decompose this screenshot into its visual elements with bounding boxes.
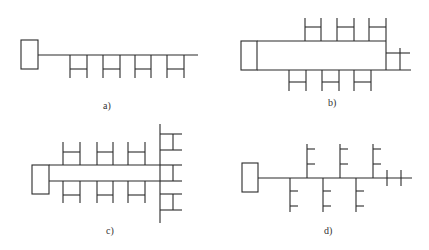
- fishbone-branch-up: [307, 144, 315, 178]
- comb-branch: [160, 194, 182, 210]
- panel-d: d): [242, 144, 412, 237]
- ladder-branch: [128, 181, 145, 203]
- source-box: [242, 163, 258, 192]
- fishbone-branch-down: [323, 178, 331, 212]
- ladder-branch: [63, 142, 80, 165]
- ladder-branch: [289, 70, 306, 91]
- comb-branch: [160, 134, 182, 150]
- ladder-branch: [305, 18, 321, 41]
- ladder-branch: [97, 142, 113, 165]
- panel-label-d: d): [324, 225, 332, 237]
- ladder-branch: [369, 18, 386, 41]
- source-box: [241, 41, 257, 70]
- fishbone-branch-down: [290, 178, 298, 212]
- ladder-branch: [128, 142, 145, 165]
- panel-label-c: c): [106, 225, 114, 237]
- source-box: [21, 40, 38, 69]
- ladder-branch: [103, 55, 120, 78]
- panel-a: a): [21, 40, 198, 112]
- panel-b: b): [241, 18, 411, 109]
- fishbone-branch-up: [340, 144, 348, 178]
- ladder-branch: [135, 55, 151, 78]
- fishbone-branch-down: [356, 178, 364, 212]
- ladder-branch: [354, 70, 371, 91]
- ladder-branch: [97, 181, 113, 203]
- source-box: [32, 165, 49, 194]
- ladder-branch: [322, 70, 339, 91]
- ladder-branch: [70, 55, 87, 78]
- panel-label-a: a): [103, 100, 111, 112]
- panel-c: c): [32, 124, 182, 237]
- ladder-branch: [167, 55, 184, 78]
- fishbone-branch-up: [373, 144, 381, 178]
- diagram-canvas: a) b): [0, 0, 429, 250]
- ladder-branch: [63, 181, 80, 203]
- panel-label-b: b): [328, 97, 336, 109]
- ladder-branch: [337, 18, 354, 41]
- end-branch: [386, 48, 410, 70]
- comb-branch: [160, 165, 182, 181]
